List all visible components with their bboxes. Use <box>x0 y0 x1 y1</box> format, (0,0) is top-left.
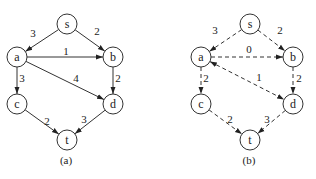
edge-weight-label: 2 <box>277 24 283 36</box>
edge-s-b: 2 <box>75 25 105 51</box>
node-label: b <box>110 50 116 64</box>
edge-d-t: 3 <box>75 110 105 134</box>
edge-a-c: 2 <box>201 67 209 94</box>
edge-weight-label: 1 <box>256 71 262 83</box>
node-c: c <box>7 94 27 114</box>
node-label: a <box>14 50 20 64</box>
node-label: c <box>14 97 19 111</box>
node-label: d <box>290 97 296 111</box>
node-label: d <box>110 97 116 111</box>
node-d: d <box>103 94 123 114</box>
edge-a-c: 3 <box>17 67 25 94</box>
edge-weight-label: 2 <box>227 113 233 125</box>
node-label: c <box>198 97 203 111</box>
edge-b-d: 2 <box>113 67 121 94</box>
node-a: a <box>7 47 27 67</box>
edge-weight-label: 3 <box>81 113 87 125</box>
edge-s-a: 3 <box>25 27 58 51</box>
edge-s-a: 3 <box>209 24 241 51</box>
node-label: s <box>65 17 70 31</box>
node-label: s <box>248 17 253 31</box>
node-b: b <box>283 47 303 67</box>
edge-weight-label: 2 <box>115 72 121 84</box>
edge-weight-label: 1 <box>63 45 69 57</box>
edge-weight-label: 2 <box>44 115 50 127</box>
edge-weight-label: 2 <box>296 72 302 84</box>
graph-diagram: 32143223sabcdt(a) 32012223sabcdt(b) <box>0 0 316 179</box>
figure-caption: (b) <box>243 154 256 167</box>
node-s: s <box>240 14 260 34</box>
edge-c-t: 2 <box>209 110 242 134</box>
edge-weight-label: 4 <box>73 72 79 84</box>
edge-weight-label: 3 <box>212 24 218 36</box>
edge-weight-label: 2 <box>203 72 209 84</box>
node-c: c <box>191 94 211 114</box>
node-t: t <box>57 130 77 150</box>
node-b: b <box>103 47 123 67</box>
node-d: d <box>283 94 303 114</box>
edge-a-b: 1 <box>27 45 103 57</box>
edge-weight-label: 3 <box>264 113 270 125</box>
edge-weight-label: 0 <box>246 43 252 55</box>
edge-weight-label: 3 <box>19 72 25 84</box>
node-s: s <box>57 14 77 34</box>
edge-a-d: 1 <box>210 62 284 100</box>
graph-b: 32012223sabcdt(b) <box>191 14 303 167</box>
node-label: b <box>290 50 296 64</box>
edge-d-t: 3 <box>258 110 286 133</box>
edge-a-b: 0 <box>211 43 283 57</box>
node-label: a <box>198 50 204 64</box>
edge-c-t: 2 <box>25 110 59 134</box>
edge-a-d: 4 <box>26 61 104 99</box>
edge-s-b: 2 <box>258 24 285 51</box>
node-a: a <box>191 47 211 67</box>
figure-caption: (a) <box>60 154 73 167</box>
edge-weight-label: 3 <box>30 27 36 39</box>
edge-weight-label: 2 <box>94 25 100 37</box>
edge-b-d: 2 <box>293 67 302 94</box>
node-t: t <box>240 130 260 150</box>
graph-a: 32143223sabcdt(a) <box>7 14 123 167</box>
